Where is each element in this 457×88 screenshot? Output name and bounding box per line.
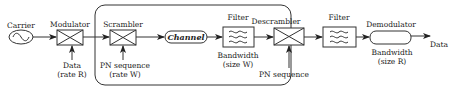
filter2-label: Filter [328, 13, 349, 22]
descrambler-label: Descrambler [252, 17, 301, 26]
filter2-block: Filter [323, 13, 356, 47]
carrier-label: Carrier [7, 21, 35, 30]
descrambler-block: Descrambler PN sequence [252, 17, 310, 79]
block-diagram: Carrier Modulator Data (rate R) Scramble… [0, 0, 457, 88]
descrambler-pn-label: PN sequence [259, 70, 309, 79]
demodulator-pill [370, 31, 411, 44]
demodulator-bandwidth-label: Bandwidth [371, 48, 412, 57]
pn-sequence-label: PN sequence [100, 61, 150, 70]
carrier-block: Carrier [7, 21, 35, 44]
filter1-label: Filter [227, 13, 248, 22]
data-input-label: Data [63, 61, 81, 70]
demodulator-block: Demodulator Bandwidth (size R) [366, 20, 416, 66]
filter1-bandwidth-label: Bandwidth [217, 51, 258, 60]
channel-block: Channel [165, 31, 207, 43]
pn-rate-label: (rate W) [109, 70, 141, 79]
demodulator-size-label: (size R) [378, 57, 407, 66]
scrambler-block: Scrambler PN sequence (rate W) [100, 20, 150, 79]
data-rate-label: (rate R) [57, 70, 86, 79]
modulator-label: Modulator [50, 20, 90, 29]
scrambler-label: Scrambler [103, 20, 143, 29]
channel-label: Channel [167, 32, 204, 42]
demodulator-label: Demodulator [366, 20, 416, 29]
modulator-block: Modulator Data (rate R) [50, 20, 90, 79]
filter1-size-label: (size W) [223, 60, 254, 69]
data-output-label: Data [430, 40, 448, 49]
